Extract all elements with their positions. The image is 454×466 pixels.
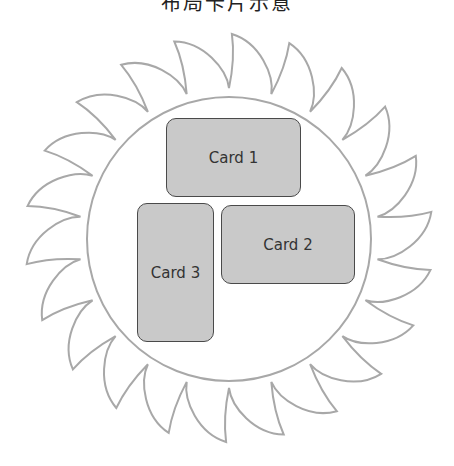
card-1[interactable]: Card 1: [166, 118, 301, 197]
card-2-label: Card 2: [263, 236, 312, 254]
card-3-label: Card 3: [151, 264, 200, 282]
card-3[interactable]: Card 3: [137, 203, 214, 342]
card-2[interactable]: Card 2: [221, 205, 355, 284]
card-1-label: Card 1: [209, 149, 258, 167]
